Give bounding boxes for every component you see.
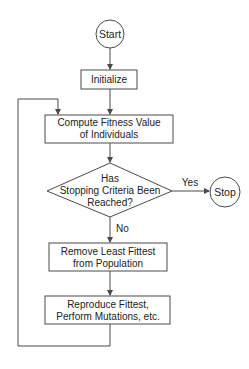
node-decision-line3: Reached? <box>87 197 133 208</box>
node-decision-line2: Stopping Criteria Been <box>60 185 161 196</box>
node-stop-label: Stop <box>214 186 236 198</box>
node-initialize: Initialize <box>81 70 137 89</box>
node-reproduce-line2: Perform Mutations, etc. <box>56 311 159 322</box>
node-stop: Stop <box>210 177 240 207</box>
node-remove-line1: Remove Least Fittest <box>61 246 156 257</box>
edge-no-label: No <box>116 223 129 234</box>
node-remove-line2: from Population <box>73 258 143 269</box>
node-compute-line2: of Individuals <box>80 129 138 140</box>
node-remove: Remove Least Fittest from Population <box>49 243 167 271</box>
flowchart: Start Initialize Compute Fitness Value o… <box>0 0 249 369</box>
node-compute-line1: Compute Fitness Value <box>57 117 161 128</box>
node-reproduce-line1: Reproduce Fittest, <box>67 299 149 310</box>
node-decision: Has Stopping Criteria Been Reached? <box>47 163 172 217</box>
edge-yes-label: Yes <box>182 177 198 188</box>
node-compute: Compute Fitness Value of Individuals <box>45 115 173 143</box>
node-reproduce: Reproduce Fittest, Perform Mutations, et… <box>45 296 170 324</box>
node-decision-line1: Has <box>101 173 119 184</box>
node-start-label: Start <box>99 28 121 40</box>
node-initialize-label: Initialize <box>91 74 128 85</box>
node-start: Start <box>96 20 124 48</box>
